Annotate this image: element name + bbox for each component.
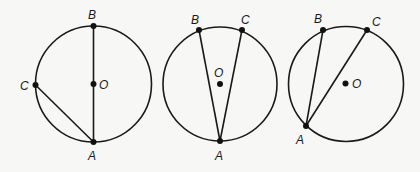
label-o: O bbox=[99, 78, 108, 92]
chord-ac bbox=[220, 30, 242, 141]
diagram-canvas: BCAOBCAOBCAO bbox=[0, 0, 420, 172]
center-point-o bbox=[91, 81, 97, 87]
label-o: O bbox=[352, 77, 361, 91]
label-b: B bbox=[314, 12, 322, 26]
label-a: A bbox=[214, 149, 223, 163]
point-a bbox=[91, 139, 97, 145]
point-a bbox=[303, 123, 309, 129]
label-a: A bbox=[295, 133, 304, 147]
point-b bbox=[91, 23, 97, 29]
point-c bbox=[239, 27, 245, 33]
point-b bbox=[196, 27, 202, 33]
figure-1: BCAO bbox=[20, 8, 152, 163]
point-c bbox=[364, 27, 370, 33]
label-c: C bbox=[20, 79, 29, 93]
label-o: O bbox=[214, 66, 223, 80]
chord-ab bbox=[199, 30, 220, 141]
label-a: A bbox=[87, 149, 96, 163]
circle-diagrams: BCAOBCAOBCAO bbox=[0, 0, 420, 172]
center-point-o bbox=[343, 81, 349, 87]
figure-3: BCAO bbox=[289, 12, 404, 147]
center-point-o bbox=[217, 81, 223, 87]
label-b: B bbox=[88, 8, 96, 22]
point-c bbox=[33, 82, 39, 88]
label-b: B bbox=[191, 13, 199, 27]
label-c: C bbox=[372, 15, 381, 29]
point-b bbox=[320, 27, 326, 33]
figure-2: BCAO bbox=[163, 13, 277, 163]
point-a bbox=[217, 138, 223, 144]
label-c: C bbox=[241, 13, 250, 27]
